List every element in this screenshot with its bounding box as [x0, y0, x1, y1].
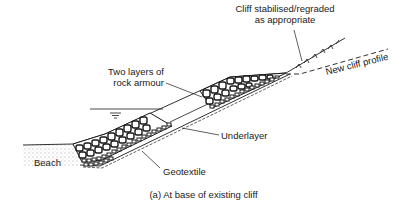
label-rock-armour-line1: Two layers of [100, 66, 164, 77]
label-underlayer-text: Underlayer [221, 130, 267, 141]
leader-cliff-stabilised [294, 30, 302, 61]
label-beach: Beach [34, 157, 61, 168]
label-beach-text: Beach [34, 157, 61, 168]
label-rock-armour: Two layers of rock armour [100, 66, 164, 88]
label-cliff-stabilised: Cliff stabilised/regraded as appropriate [230, 3, 340, 25]
leader-geotextile [142, 151, 160, 168]
label-cliff-stabilised-line2: as appropriate [230, 14, 340, 25]
label-rock-armour-line2: rock armour [100, 77, 164, 88]
label-cliff-stabilised-line1: Cliff stabilised/regraded [230, 3, 340, 14]
leader-rock-armour [166, 83, 202, 97]
figure-caption: (a) At base of existing cliff [0, 189, 407, 200]
label-geotextile: Geotextile [163, 166, 206, 177]
leader-underlayer [182, 128, 219, 135]
label-geotextile-text: Geotextile [163, 166, 206, 177]
label-underlayer: Underlayer [221, 130, 267, 141]
